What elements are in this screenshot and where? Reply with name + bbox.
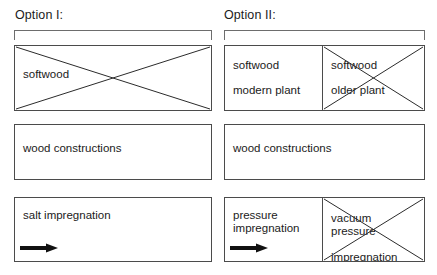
cross-out-icon: [323, 46, 424, 110]
option-1-treatment-text: salt impregnation: [23, 209, 111, 222]
option-1-raw-material-box: softwood: [14, 45, 212, 111]
option-2-raw-material-older-line1: softwood: [331, 59, 377, 72]
option-2-bracket: [224, 30, 425, 40]
option-2-product-text: wood constructions: [233, 142, 331, 155]
option-2-raw-material-cell-older: softwood older plant: [322, 46, 424, 110]
option-2-treatment-cell-vacuum: vacuum pressure impregnation: [322, 198, 424, 261]
option-2-product-box: wood constructions: [224, 124, 425, 180]
option-1-process-arrow-icon: [20, 242, 58, 254]
process-options-diagram: Option I: softwood wood constructions sa…: [0, 0, 437, 275]
option-2-raw-material-cell-modern: softwood modern plant: [225, 46, 324, 110]
option-2-treatment-pressure-line1: pressure: [233, 209, 278, 222]
option-2-treatment-box: pressure impregnation vacuum pressure im…: [224, 197, 425, 262]
option-1-product-text: wood constructions: [23, 142, 121, 155]
option-1-treatment-box: salt impregnation: [14, 197, 212, 262]
option-2-raw-material-box: softwood modern plant softwood older pla…: [224, 45, 425, 111]
option-2-raw-material-modern-line2: modern plant: [233, 84, 300, 97]
option-2-label: Option II:: [224, 8, 276, 22]
option-1-product-box: wood constructions: [14, 124, 212, 180]
option-2-treatment-vacuum-text: vacuum pressure impregnation: [331, 212, 419, 262]
option-2-treatment-pressure-line2: impregnation: [233, 222, 299, 235]
option-2-treatment-vacuum-line2: impregnation: [331, 251, 397, 262]
option-2-treatment-cell-pressure: pressure impregnation: [225, 198, 324, 261]
option-2-process-arrow-icon: [230, 242, 268, 254]
option-2-raw-material-older-line2: older plant: [331, 84, 385, 97]
option-1-label: Option I:: [15, 8, 63, 22]
option-1-bracket: [14, 30, 212, 40]
option-2-raw-material-modern-line1: softwood: [233, 59, 279, 72]
option-2-treatment-vacuum-line1: vacuum pressure: [331, 212, 419, 251]
option-1-raw-material-text: softwood: [23, 68, 69, 81]
